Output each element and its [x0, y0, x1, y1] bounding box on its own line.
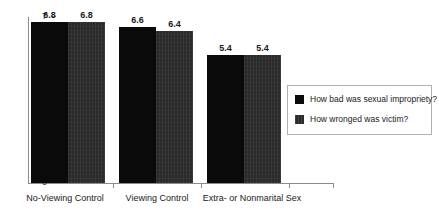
bar-group-1: 6.8 6.8: [31, 17, 105, 183]
x-tick-mark-1: [113, 183, 114, 188]
bar-value-label: 6.8: [43, 10, 56, 21]
bar-series-1-cat-0[interactable]: 6.8: [68, 22, 105, 183]
bar-series-1-cat-1[interactable]: 6.4: [156, 31, 193, 183]
bar-value-label: 5.4: [256, 43, 269, 54]
x-tick-mark-2: [201, 183, 202, 188]
bar-value-label: 5.4: [219, 43, 232, 54]
x-axis-label-3: Extra- or Nonmarital Sex: [184, 192, 320, 204]
bar-series-0-cat-2[interactable]: 5.4: [207, 55, 244, 183]
legend-item-1[interactable]: How wronged was victim?: [295, 112, 424, 127]
bar-series-0-cat-0[interactable]: 6.8: [31, 22, 68, 183]
legend-swatch-icon: [295, 95, 304, 104]
bar-group-2: 6.6 6.4: [119, 17, 193, 183]
legend-label: How bad was sexual impropriety?: [310, 94, 437, 105]
plot-area: 0 1 2 3 4 5 6 7: [28, 17, 304, 183]
bar-group-3: 5.4 5.4: [207, 17, 281, 183]
x-axis-label-1: No-Viewing Control: [10, 192, 120, 204]
legend-swatch-icon: [295, 115, 304, 124]
bar-series-0-cat-1[interactable]: 6.6: [119, 27, 156, 184]
bar-series-1-cat-2[interactable]: 5.4: [244, 55, 281, 183]
legend-label: How wronged was victim?: [310, 114, 408, 125]
bar-value-label: 6.4: [168, 19, 181, 30]
bar-value-label: 6.6: [131, 15, 144, 26]
x-tick-mark-3: [289, 183, 290, 188]
bar-value-label: 6.8: [80, 10, 93, 21]
bar-chart: 0 1 2 3 4 5 6 7: [0, 0, 439, 217]
legend: How bad was sexual impropriety? How wron…: [287, 85, 432, 135]
legend-item-0[interactable]: How bad was sexual impropriety?: [295, 92, 424, 107]
x-tick-mark-4: [333, 183, 334, 188]
